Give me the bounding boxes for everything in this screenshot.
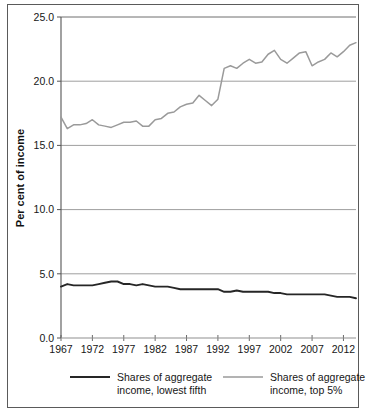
series-line-0 (61, 282, 356, 299)
x-tick-label-2007: 2007 (300, 343, 324, 355)
y-tick-label-10.0: 10.0 (34, 203, 55, 215)
x-tick-label-1982: 1982 (143, 343, 167, 355)
gridline-group (61, 17, 356, 274)
legend-label-0-line2: income, lowest fifth (117, 384, 206, 396)
x-tick-label-2002: 2002 (269, 343, 293, 355)
y-tick-label-15.0: 15.0 (34, 139, 55, 151)
y-axis-title: Per cent of income (14, 129, 26, 227)
legend-label-0-line1: Shares of aggregate (117, 371, 212, 383)
legend-label-1-line1: Shares of aggregate (270, 371, 365, 383)
x-tick-label-1997: 1997 (238, 343, 262, 355)
legend-label-1-line2: income, top 5% (270, 384, 342, 396)
y-tick-group: 0.05.010.015.020.025.0 (34, 11, 61, 344)
x-tick-label-1972: 1972 (81, 343, 105, 355)
x-tick-label-1977: 1977 (112, 343, 136, 355)
chart-figure: 0.05.010.015.020.025.0 19671972197719821… (0, 0, 368, 418)
line-chart: 0.05.010.015.020.025.0 19671972197719821… (0, 0, 368, 418)
x-tick-label-1992: 1992 (206, 343, 230, 355)
y-tick-label-20.0: 20.0 (34, 75, 55, 87)
x-tick-label-1967: 1967 (49, 343, 73, 355)
x-tick-label-1987: 1987 (175, 343, 199, 355)
y-tick-label-5.0: 5.0 (39, 268, 54, 280)
y-tick-label-25.0: 25.0 (34, 11, 55, 23)
page-bleed-text (2, 410, 366, 418)
x-tick-label-2012: 2012 (332, 343, 356, 355)
y-tick-label-0.0: 0.0 (39, 332, 54, 344)
chart-legend: Shares of aggregateincome, lowest fifthS… (70, 371, 365, 396)
series-line-1 (61, 43, 356, 129)
